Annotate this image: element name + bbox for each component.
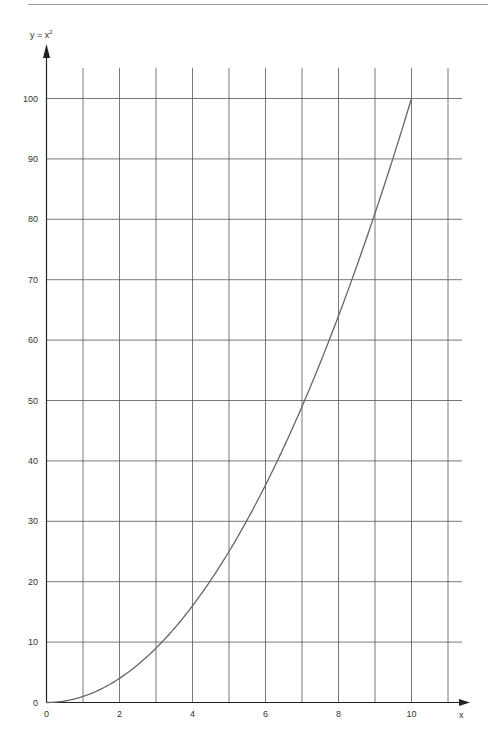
y-tick-label: 50: [28, 396, 38, 406]
y-axis-arrow-icon: [43, 44, 50, 58]
x-tick-label: 6: [263, 709, 268, 719]
y-tick-label: 30: [28, 516, 38, 526]
x-axis-arrow-icon: [459, 699, 470, 706]
y-tick-label: 10: [28, 637, 38, 647]
x-tick-label: 2: [117, 709, 122, 719]
x-tick-label: 4: [190, 709, 195, 719]
x-tick-label: 8: [336, 709, 341, 719]
x-axis-label: x: [459, 710, 464, 720]
y-tick-label: 100: [23, 94, 38, 104]
y-tick-label: 20: [28, 577, 38, 587]
y-tick-label: 0: [33, 698, 38, 708]
chart: 0102030405060708090100 0246810 y = x2 x: [0, 0, 488, 737]
y-tick-label: 70: [28, 275, 38, 285]
y-tick-label: 60: [28, 335, 38, 345]
x-tick-label: 0: [44, 709, 49, 719]
y-axis-label: y = x2: [30, 29, 53, 40]
y-tick-label: 90: [28, 154, 38, 164]
y-tick-label: 80: [28, 214, 38, 224]
grid-lines: [47, 68, 463, 703]
axes: [43, 44, 470, 706]
x-tick-label: 10: [406, 709, 416, 719]
y-tick-label: 40: [28, 456, 38, 466]
y-tick-labels: 0102030405060708090100: [23, 94, 38, 708]
x-tick-labels: 0246810: [44, 709, 417, 719]
